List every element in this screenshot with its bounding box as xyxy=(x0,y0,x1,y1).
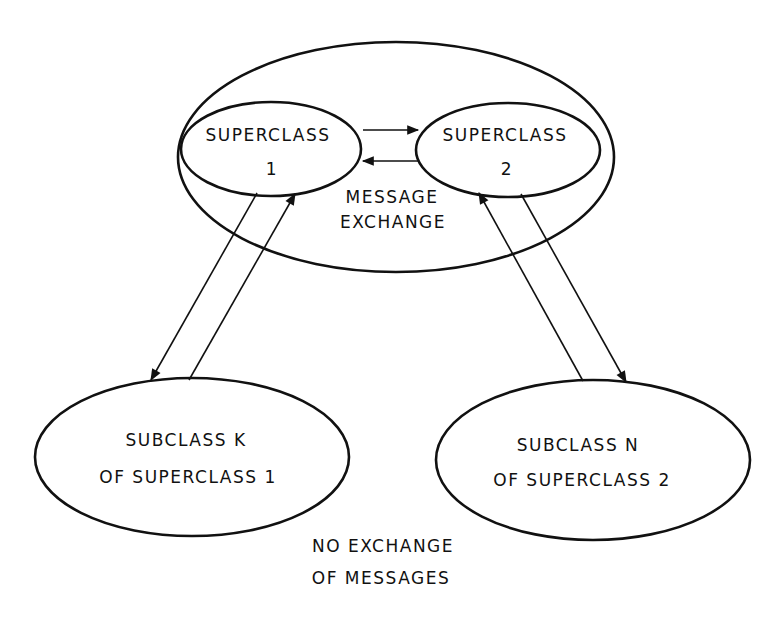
subclass-n-ellipse xyxy=(436,380,750,540)
superclass-1-ellipse xyxy=(181,102,361,196)
arrow-subclass-n-to-superclass2 xyxy=(479,193,583,381)
subclass-n-label-line1: SUBCLASS N xyxy=(517,435,640,455)
superclass-2-label-line1: SUPERCLASS xyxy=(442,125,567,145)
node-superclass-1: SUPERCLASS 1 xyxy=(181,102,361,196)
superclass-1-label-line1: SUPERCLASS xyxy=(205,125,330,145)
subclass-n-label-line2: OF SUPERCLASS 2 xyxy=(493,470,670,490)
no-exchange-label: NO EXCHANGE OF MESSAGES xyxy=(312,536,454,588)
message-exchange-label: MESSAGE EXCHANGE xyxy=(340,187,446,232)
superclass-1-label-line2: 1 xyxy=(266,159,278,179)
message-exchange-line2: EXCHANGE xyxy=(340,212,446,232)
subclass-k-label-line2: OF SUPERCLASS 1 xyxy=(99,467,276,487)
no-exchange-line2: OF MESSAGES xyxy=(312,568,450,588)
arrow-subclass-k-to-superclass1 xyxy=(189,194,295,380)
message-exchange-container xyxy=(178,42,614,272)
subclass-k-ellipse xyxy=(35,378,349,536)
subclass-k-label-line1: SUBCLASS K xyxy=(125,430,246,450)
no-exchange-line1: NO EXCHANGE xyxy=(312,536,454,556)
class-hierarchy-diagram: SUPERCLASS 1 SUPERCLASS 2 MESSAGE EXCHAN… xyxy=(0,0,771,618)
message-exchange-line1: MESSAGE xyxy=(345,187,438,207)
superclass-2-ellipse xyxy=(416,103,600,197)
arrow-superclass1-to-subclass-k xyxy=(151,193,257,380)
node-superclass-2: SUPERCLASS 2 xyxy=(416,103,600,197)
node-subclass-k: SUBCLASS K OF SUPERCLASS 1 xyxy=(35,378,349,536)
node-subclass-n: SUBCLASS N OF SUPERCLASS 2 xyxy=(436,380,750,540)
superclass-2-label-line2: 2 xyxy=(501,159,513,179)
